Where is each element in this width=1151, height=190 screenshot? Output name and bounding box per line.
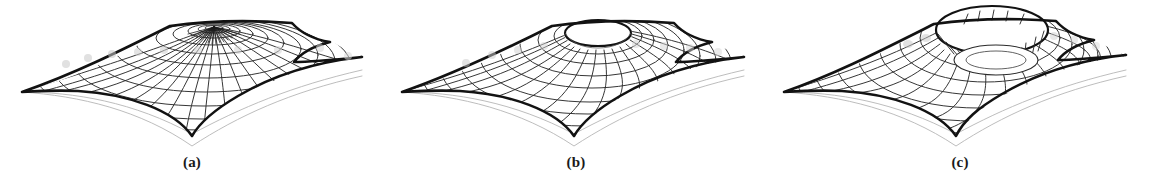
figure-panel-a: (a) — [0, 0, 384, 190]
panel-b-caption: (b) — [567, 155, 586, 170]
panel-c-caption: (c) — [951, 155, 968, 170]
panel-a-caption: (a) — [183, 155, 201, 170]
panel-a-ridge-highlights — [62, 44, 352, 68]
panel-a-drawing — [0, 0, 384, 148]
panel-b-canvas — [384, 0, 768, 148]
panel-b-radial-spokes — [404, 30, 734, 134]
figure-panel-c: (c) — [768, 0, 1151, 190]
panel-a-rings — [34, 10, 366, 130]
panel-b-drawing — [384, 0, 768, 148]
panel-a-canvas — [0, 0, 384, 148]
panel-c-drawing — [768, 0, 1151, 148]
figure-row: (a) — [0, 0, 1151, 190]
panel-c-canvas — [768, 0, 1151, 148]
figure-panel-b: (b) — [384, 0, 768, 190]
